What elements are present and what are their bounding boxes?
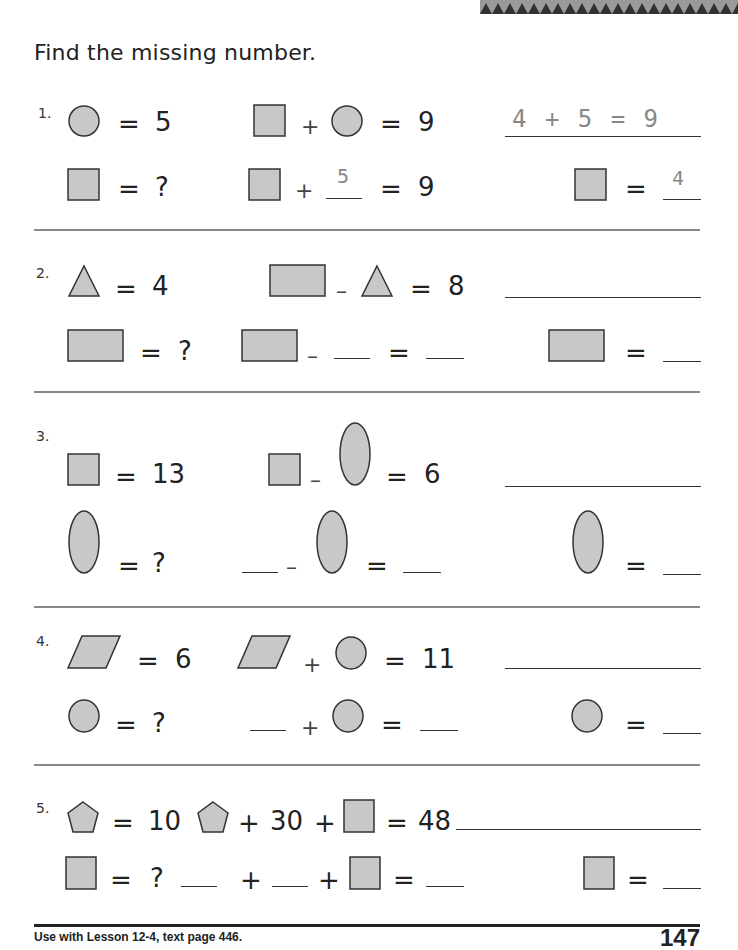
given-value: 13 xyxy=(152,461,185,487)
equals-sign: = xyxy=(115,712,137,738)
number-sentence-line[interactable] xyxy=(505,668,701,669)
answer-blank[interactable] xyxy=(663,361,701,362)
square-icon xyxy=(253,104,287,138)
equals-sign: = xyxy=(140,340,162,366)
plus-sign: + xyxy=(301,116,319,138)
equals-sign: = xyxy=(115,276,137,302)
answer-blank[interactable] xyxy=(663,574,701,575)
plus-sign: + xyxy=(303,654,321,676)
instruction-title: Find the missing number. xyxy=(34,40,316,65)
equals-sign: = xyxy=(410,276,432,302)
work-result-blank[interactable] xyxy=(403,572,441,573)
divider xyxy=(34,764,700,766)
rectangle-icon xyxy=(269,264,327,298)
footer-divider xyxy=(34,924,700,927)
parallelogram-icon xyxy=(236,634,292,670)
oval-icon xyxy=(314,508,350,576)
equation-result: 9 xyxy=(418,109,435,135)
answer-blank[interactable] xyxy=(663,199,701,200)
work-blank[interactable] xyxy=(181,886,217,887)
square-icon xyxy=(574,168,608,202)
plus-sign: + xyxy=(238,810,260,836)
minus-sign: – xyxy=(336,280,347,302)
plus-sign: + xyxy=(314,810,336,836)
work-blank[interactable] xyxy=(250,730,286,731)
minus-sign: – xyxy=(310,469,321,491)
equals-sign: = xyxy=(118,553,140,579)
lesson-reference: Use with Lesson 12-4, text page 446. xyxy=(34,930,242,944)
work-result-blank[interactable] xyxy=(426,886,464,887)
pentagon-icon xyxy=(66,800,100,834)
unknown-label: ? xyxy=(152,710,166,736)
equals-sign: = xyxy=(380,111,402,137)
equals-sign: = xyxy=(386,810,408,836)
work-blank[interactable] xyxy=(242,572,278,573)
circle-icon xyxy=(334,636,368,670)
work-blank[interactable] xyxy=(272,886,308,887)
equals-sign: = xyxy=(393,867,415,893)
minus-sign: – xyxy=(286,556,297,578)
divider xyxy=(34,229,700,231)
problem-number: 1. xyxy=(38,105,51,121)
work-blank[interactable] xyxy=(334,358,370,359)
traced-answer: 4 xyxy=(672,168,686,188)
divider xyxy=(34,606,700,608)
traced-filled-value: 5 xyxy=(337,166,351,186)
parallelogram-icon xyxy=(66,634,122,670)
oval-icon xyxy=(66,508,102,576)
triangle-icon xyxy=(360,264,394,298)
circle-icon xyxy=(331,699,365,733)
oval-icon xyxy=(570,508,606,576)
answer-blank[interactable] xyxy=(663,733,701,734)
constant-value: 30 xyxy=(270,808,303,834)
number-sentence-line[interactable] xyxy=(505,136,701,137)
plus-sign: + xyxy=(301,717,319,739)
rectangle-icon xyxy=(241,329,299,363)
number-sentence-line[interactable] xyxy=(456,829,701,830)
page-number: 147 xyxy=(660,924,700,950)
triangle-icon xyxy=(67,264,101,298)
equation-result: 11 xyxy=(422,646,455,672)
given-value: 4 xyxy=(152,273,169,299)
answer-blank[interactable] xyxy=(663,888,701,889)
plus-sign: + xyxy=(240,867,262,893)
work-result-blank[interactable] xyxy=(426,358,464,359)
square-icon xyxy=(67,168,101,202)
circle-icon xyxy=(67,104,101,138)
equation-result: 8 xyxy=(448,273,465,299)
oval-icon xyxy=(337,420,373,488)
number-sentence-line[interactable] xyxy=(505,486,701,487)
circle-icon xyxy=(330,104,364,138)
equals-sign: = xyxy=(384,648,406,674)
unknown-label: ? xyxy=(152,550,166,576)
traced-answer-sentence: 4 + 5 = 9 xyxy=(512,107,660,131)
equals-sign: = xyxy=(625,553,647,579)
equals-sign: = xyxy=(625,712,647,738)
problem-number: 5. xyxy=(36,800,49,816)
equals-sign: = xyxy=(381,712,403,738)
problem-number: 2. xyxy=(36,265,49,281)
plus-sign: + xyxy=(295,180,313,202)
equation-result: 48 xyxy=(418,808,451,834)
given-value: 6 xyxy=(175,646,192,672)
equals-sign: = xyxy=(625,340,647,366)
unknown-label: ? xyxy=(150,865,164,891)
work-result: 9 xyxy=(418,174,435,200)
rectangle-icon xyxy=(67,329,125,363)
work-result-blank[interactable] xyxy=(420,730,458,731)
square-icon xyxy=(343,799,377,835)
square-icon xyxy=(349,856,383,892)
equals-sign: = xyxy=(380,176,402,202)
minus-sign: – xyxy=(307,345,318,367)
circle-icon xyxy=(570,699,604,733)
equals-sign: = xyxy=(118,176,140,202)
equals-sign: = xyxy=(118,111,140,137)
square-icon xyxy=(583,856,617,892)
problem-number: 3. xyxy=(36,428,49,444)
work-blank[interactable] xyxy=(326,198,362,199)
square-icon xyxy=(67,453,101,487)
square-icon xyxy=(268,453,302,487)
number-sentence-line[interactable] xyxy=(505,297,701,298)
equals-sign: = xyxy=(115,464,137,490)
given-value: 5 xyxy=(155,109,172,135)
